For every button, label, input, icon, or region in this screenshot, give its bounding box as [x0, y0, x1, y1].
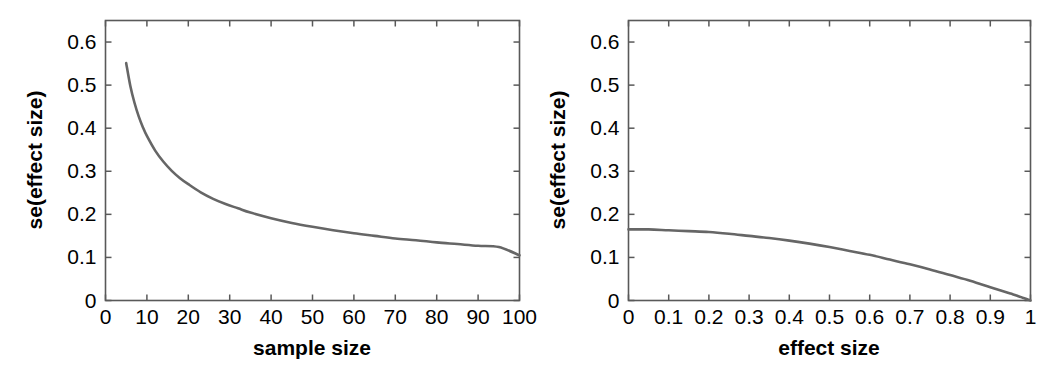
right-x-ticklabels: 00.10.20.30.40.50.60.70.80.91	[623, 305, 1037, 328]
y-tick-label: 0.5	[67, 73, 96, 96]
left-x-axis-title: sample size	[253, 336, 371, 359]
x-tick-label: 80	[425, 305, 448, 328]
x-tick-label: 0.1	[654, 305, 683, 328]
x-tick-label: 0.7	[895, 305, 924, 328]
x-tick-label: 0.4	[775, 305, 805, 328]
x-tick-label: 0.2	[694, 305, 723, 328]
x-tick-label: 20	[177, 305, 200, 328]
x-tick-label: 50	[301, 305, 324, 328]
y-tick-label: 0.1	[590, 245, 619, 268]
x-tick-label: 30	[218, 305, 241, 328]
right-x-tickmarks	[629, 21, 1031, 301]
left-y-tickmarks	[106, 42, 520, 300]
right-x-axis-title: effect size	[778, 336, 880, 359]
y-tick-label: 0.6	[590, 30, 619, 53]
x-tick-label: 0.9	[976, 305, 1005, 328]
left-y-axis-title: se(effect size)	[23, 91, 46, 230]
y-tick-label: 0.3	[67, 159, 96, 182]
y-tick-label: 0	[85, 289, 97, 312]
right-y-axis-title: se(effect size)	[546, 91, 569, 230]
x-tick-label: 0.8	[935, 305, 964, 328]
y-tick-label: 0.2	[67, 202, 96, 225]
x-tick-label: 0	[623, 305, 635, 328]
right-y-tickmarks	[629, 42, 1031, 300]
y-tick-label: 0.1	[67, 245, 96, 268]
figure-container: 0102030405060708090100 00.10.20.30.40.50…	[0, 0, 1063, 386]
right-data-curve	[629, 229, 1031, 300]
chart-panel-right: 00.10.20.30.40.50.60.70.80.91 00.10.20.3…	[523, 0, 1054, 386]
y-tick-label: 0.5	[590, 73, 619, 96]
y-tick-label: 0.4	[67, 116, 97, 139]
x-tick-label: 90	[466, 305, 489, 328]
y-tick-label: 0.3	[590, 159, 619, 182]
x-tick-label: 0.6	[855, 305, 884, 328]
left-plot-svg: 0102030405060708090100 00.10.20.30.40.50…	[0, 0, 531, 386]
right-axis-frame	[629, 21, 1031, 301]
x-tick-label: 70	[384, 305, 407, 328]
right-y-ticklabels: 00.10.20.30.40.50.6	[590, 30, 620, 311]
y-tick-label: 0.2	[590, 202, 619, 225]
y-tick-label: 0.6	[67, 30, 96, 53]
left-axis-frame	[106, 21, 520, 301]
left-x-tickmarks	[106, 21, 520, 301]
left-x-ticklabels: 0102030405060708090100	[100, 305, 537, 328]
x-tick-label: 0	[100, 305, 112, 328]
left-data-curve	[126, 63, 519, 255]
x-tick-label: 0.5	[815, 305, 844, 328]
x-tick-label: 1	[1025, 305, 1037, 328]
x-tick-label: 10	[135, 305, 158, 328]
chart-panel-left: 0102030405060708090100 00.10.20.30.40.50…	[0, 0, 531, 386]
left-y-ticklabels: 00.10.20.30.40.50.6	[67, 30, 97, 311]
x-tick-label: 40	[259, 305, 282, 328]
x-tick-label: 0.3	[734, 305, 763, 328]
right-plot-svg: 00.10.20.30.40.50.60.70.80.91 00.10.20.3…	[523, 0, 1054, 386]
y-tick-label: 0.4	[590, 116, 620, 139]
y-tick-label: 0	[608, 289, 620, 312]
x-tick-label: 60	[342, 305, 365, 328]
